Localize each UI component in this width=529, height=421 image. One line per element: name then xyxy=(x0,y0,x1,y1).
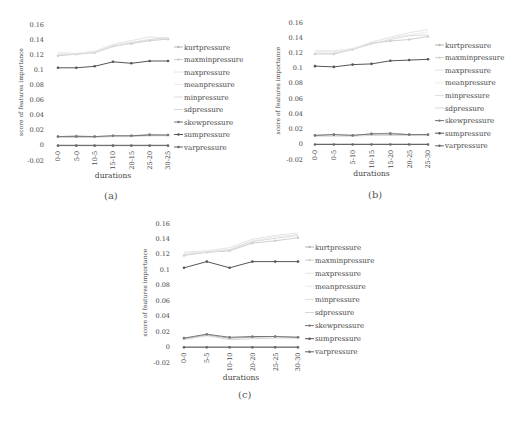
data-point xyxy=(228,336,231,339)
y-tick-label: 0 xyxy=(166,343,170,351)
legend-item-meanpressure: meanpressure xyxy=(174,81,235,89)
data-point xyxy=(57,135,60,138)
legend-item-skewpressure: skewpressure xyxy=(435,117,494,125)
y-tick-label: 0.08 xyxy=(289,79,303,87)
data-point xyxy=(167,144,170,147)
data-point xyxy=(427,133,430,136)
y-tick-label: 0.06 xyxy=(30,96,44,104)
series-maxminpressure xyxy=(314,35,430,55)
x-tick-label: 10-5 xyxy=(91,151,99,166)
legend-label: kurtpressure xyxy=(445,42,491,50)
legend-item-sdpressure: sdpressure xyxy=(174,106,223,114)
y-tick-label: 0.02 xyxy=(30,126,44,134)
x-tick-label: 20-20 xyxy=(249,353,257,372)
data-point xyxy=(167,60,170,63)
legend-label: meanpressure xyxy=(445,79,496,87)
line-chart-c: 0.160.140.120.10.080.060.040.020-0.02sco… xyxy=(130,210,410,390)
y-tick-label: 0.1 xyxy=(34,66,44,74)
data-point xyxy=(333,133,336,136)
legend-item-maxminpressure: maxminpressure xyxy=(174,56,243,64)
data-point xyxy=(389,143,392,146)
legend-label: minpressure xyxy=(315,296,360,304)
x-tick-label: 5-0 xyxy=(73,151,81,161)
legend-label: meanpressure xyxy=(184,81,235,89)
y-tick-label: 0.12 xyxy=(156,250,170,258)
data-point xyxy=(93,65,96,68)
legend-item-varpressure: varpressure xyxy=(435,142,488,150)
legend-item-kurtpressure: kurtpressure xyxy=(435,42,491,50)
data-point xyxy=(427,143,430,146)
data-point xyxy=(206,346,209,349)
legend-item-skewpressure: skewpressure xyxy=(174,119,233,127)
legend-label: sdpressure xyxy=(445,105,484,113)
data-point xyxy=(297,236,300,239)
data-point xyxy=(167,134,170,137)
data-point xyxy=(251,260,254,263)
legend-label: maxpressure xyxy=(184,69,230,77)
legend-label: maxpressure xyxy=(445,67,491,75)
y-tick-label: 0.04 xyxy=(289,110,303,118)
data-point xyxy=(148,60,151,63)
legend-item-minpressure: minpressure xyxy=(174,94,229,102)
x-tick-label: 0-5 xyxy=(330,150,338,160)
series-maxpressure xyxy=(315,30,428,51)
legend-item-maxpressure: maxpressure xyxy=(305,270,361,278)
y-tick-label: 0 xyxy=(40,141,44,149)
y-tick-label: 0.14 xyxy=(289,34,303,42)
data-point xyxy=(93,135,96,138)
data-point xyxy=(112,135,115,138)
x-tick-label: 15-20 xyxy=(387,150,395,169)
x-tick-label: 25-20 xyxy=(146,151,154,170)
x-tick-label: 5-5 xyxy=(203,353,211,363)
data-point xyxy=(351,134,354,137)
legend-label: maxminpressure xyxy=(445,54,504,62)
x-axis-label: durations xyxy=(95,171,131,180)
x-tick-label: 20-25 xyxy=(406,150,414,169)
legend-item-sumpressure: sumpressure xyxy=(174,131,230,139)
x-axis-label: durations xyxy=(223,373,259,382)
chart-panel-a: 0.160.140.120.10.080.060.040.020-0.02sco… xyxy=(0,0,265,180)
y-axis-label: score of features importance xyxy=(141,248,149,336)
y-tick-label: 0.12 xyxy=(289,49,303,57)
legend-label: sumpressure xyxy=(445,130,491,138)
legend-label: meanpressure xyxy=(315,283,366,291)
data-point xyxy=(427,58,430,61)
y-tick-label: 0.08 xyxy=(30,81,44,89)
legend-label: maxminpressure xyxy=(315,257,374,265)
data-point xyxy=(228,266,231,269)
y-tick-label: 0.12 xyxy=(30,51,44,59)
x-tick-label: 0-0 xyxy=(312,150,320,160)
data-point xyxy=(408,133,411,136)
line-chart-a: 0.160.140.120.10.080.060.040.020-0.02sco… xyxy=(0,0,265,180)
data-point xyxy=(427,35,430,38)
x-tick-label: 10-10 xyxy=(226,353,234,372)
data-point xyxy=(314,134,317,137)
x-tick-label: 0-0 xyxy=(181,353,189,363)
legend-item-minpressure: minpressure xyxy=(435,92,490,100)
data-point xyxy=(314,65,317,68)
y-tick-label: 0.1 xyxy=(160,266,170,274)
x-tick-label: 10-15 xyxy=(368,150,376,169)
data-point xyxy=(274,335,277,338)
legend-item-maxpressure: maxpressure xyxy=(174,69,230,77)
data-point xyxy=(148,144,151,147)
x-tick-label: 25-25 xyxy=(272,353,280,372)
legend-label: varpressure xyxy=(183,144,227,152)
data-point xyxy=(389,133,392,136)
legend-label: minpressure xyxy=(445,92,490,100)
y-tick-label: 0.08 xyxy=(156,281,170,289)
caption-a: (a) xyxy=(104,190,118,201)
legend-label: skewpressure xyxy=(445,117,494,125)
data-point xyxy=(130,62,133,65)
legend-label: maxminpressure xyxy=(184,56,243,64)
data-point xyxy=(389,60,392,63)
series-sumpressure xyxy=(183,260,300,269)
legend-label: skewpressure xyxy=(315,322,364,330)
data-point xyxy=(206,333,209,336)
legend-item-sumpressure: sumpressure xyxy=(435,130,491,138)
data-point xyxy=(370,63,373,66)
data-point xyxy=(274,346,277,349)
legend-label: sdpressure xyxy=(184,106,223,114)
data-point xyxy=(130,135,133,138)
legend-item-varpressure: varpressure xyxy=(305,348,358,356)
